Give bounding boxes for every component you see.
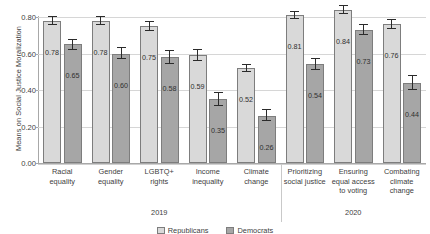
bar-value-label: 0.58	[161, 84, 179, 93]
y-axis-tick-label: 0.80	[2, 13, 36, 22]
legend-swatch	[226, 227, 234, 234]
plot-area: 0.780.780.750.590.520.810.840.760.650.60…	[38, 17, 426, 163]
legend-label: Democrats	[237, 226, 273, 234]
bar-value-label: 0.75	[140, 53, 158, 62]
bar-value-label: 0.78	[92, 48, 110, 57]
bar-value-label: 0.59	[189, 82, 207, 91]
x-axis-category-label: Incomeinequality	[184, 167, 233, 186]
x-axis-category-label: LGBTQ+rights	[135, 167, 184, 186]
error-bar-cap-top	[214, 92, 223, 93]
x-axis-category-label-line: Prioritizing	[281, 167, 330, 177]
bar-value-label: 0.65	[64, 71, 82, 80]
x-axis-category-label-line: equality	[38, 177, 87, 187]
x-axis-category-label-line: LGBTQ+	[135, 167, 184, 177]
legend-swatch	[157, 227, 165, 234]
x-axis-group-labels: 20192020	[38, 208, 426, 222]
bar[interactable]	[92, 21, 110, 163]
bar[interactable]	[112, 54, 130, 164]
error-bar-cap-top	[339, 5, 348, 6]
bar-value-label: 0.54	[306, 91, 324, 100]
y-axis-tick-labels: 0.000.200.400.600.80	[0, 0, 36, 234]
x-axis-category-label-line: to voting	[329, 186, 378, 196]
bar[interactable]	[258, 116, 276, 163]
error-bar-cap-top	[145, 21, 154, 22]
bar-value-label: 0.73	[355, 57, 373, 66]
bar-value-label: 0.84	[334, 37, 352, 46]
legend-item[interactable]: Democrats	[226, 226, 273, 234]
x-axis-category-label-line: Income	[184, 167, 233, 177]
x-axis-category-label-line: Combating	[378, 167, 427, 177]
y-axis-tick-label: 0.60	[2, 49, 36, 58]
x-axis-category-label: Ensuringequal accessto voting	[329, 167, 378, 196]
x-axis-category-label-line: Gender	[87, 167, 136, 177]
bar[interactable]	[237, 68, 255, 163]
x-axis-category-label: Prioritizingsocial justice	[281, 167, 330, 186]
x-axis-category-label-line: Ensuring	[329, 167, 378, 177]
y-axis-tick-label: 0.40	[2, 86, 36, 95]
bar[interactable]	[334, 10, 352, 163]
chart-legend: RepublicansDemocrats	[0, 226, 430, 234]
bar-value-label: 0.60	[112, 81, 130, 90]
bar[interactable]	[306, 64, 324, 163]
x-axis-group-label: 2020	[281, 208, 427, 217]
bar[interactable]	[161, 57, 179, 163]
error-bar-cap-top	[311, 58, 320, 59]
error-bar-cap-top	[117, 47, 126, 48]
bar-value-label: 0.76	[383, 51, 401, 60]
bar[interactable]	[403, 83, 421, 163]
x-axis-category-label-line: Racial	[38, 167, 87, 177]
legend-label: Republicans	[168, 226, 209, 234]
x-axis-category-labels: RacialequalityGenderequalityLGBTQ+rights…	[38, 164, 426, 210]
error-bar-cap-top	[165, 50, 174, 51]
x-axis-category-label-line: change	[232, 177, 281, 187]
bar-chart: Means on Social Justice Moralization 0.0…	[0, 0, 430, 234]
bar[interactable]	[43, 21, 61, 163]
x-axis-group-label: 2019	[38, 208, 281, 217]
x-axis-category-label: Genderequality	[87, 167, 136, 186]
error-bar-cap-top	[290, 11, 299, 12]
y-axis-tick-label: 0.20	[2, 122, 36, 131]
bar-value-label: 0.44	[403, 110, 421, 119]
error-bar-cap-top	[193, 49, 202, 50]
error-bar-cap-top	[387, 19, 396, 20]
x-axis-category-label-line: equality	[87, 177, 136, 187]
bar[interactable]	[189, 55, 207, 163]
bar[interactable]	[383, 24, 401, 163]
x-axis-category-label: Climatechange	[232, 167, 281, 186]
y-axis-tick-label: 0.00	[2, 159, 36, 168]
bar-value-label: 0.52	[237, 95, 255, 104]
x-axis-category-label-line: equal access	[329, 177, 378, 187]
x-axis-category-label-line: inequality	[184, 177, 233, 187]
legend-item[interactable]: Republicans	[157, 226, 209, 234]
error-bar-cap-top	[408, 75, 417, 76]
error-bar-cap-top	[359, 24, 368, 25]
x-axis-category-label-line: change	[378, 186, 427, 196]
bar-value-label: 0.26	[258, 143, 276, 152]
group-separator	[281, 164, 282, 222]
bar-value-label: 0.78	[43, 48, 61, 57]
error-bar-cap-top	[68, 39, 77, 40]
bar-value-label: 0.35	[209, 126, 227, 135]
bar-value-label: 0.81	[286, 42, 304, 51]
x-axis-category-label-line: social justice	[281, 177, 330, 187]
x-axis-category-label: Racialequality	[38, 167, 87, 186]
bar[interactable]	[140, 26, 158, 163]
x-axis-category-label-line: Climate	[232, 167, 281, 177]
x-axis-category-label: Combatingclimatechange	[378, 167, 427, 196]
error-bar-cap-top	[262, 109, 271, 110]
error-bar-cap-top	[242, 64, 251, 65]
bar[interactable]	[355, 30, 373, 163]
bar[interactable]	[64, 44, 82, 163]
gridline	[38, 17, 426, 18]
x-axis-category-label-line: rights	[135, 177, 184, 187]
bar[interactable]	[286, 15, 304, 163]
x-axis-category-label-line: climate	[378, 177, 427, 187]
